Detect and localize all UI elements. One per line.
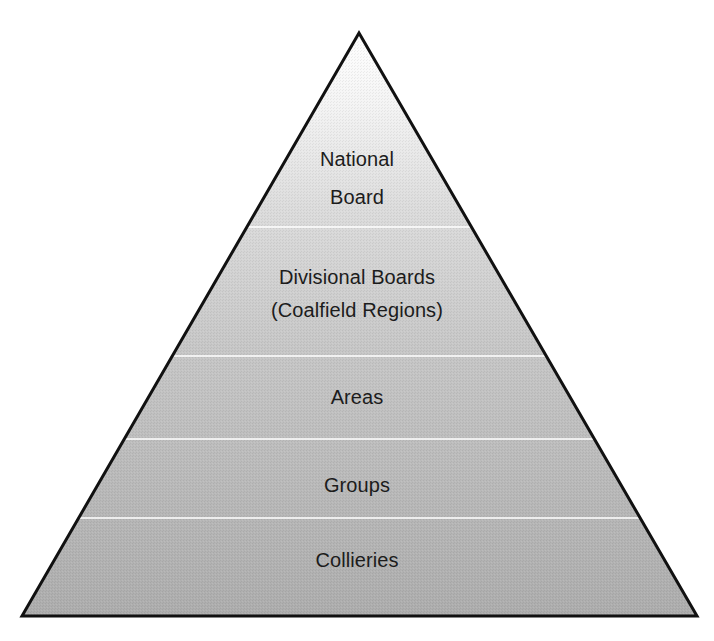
tier-1-line-1: National — [0, 143, 714, 176]
tier-label-areas: Areas — [0, 381, 714, 414]
tier-5-line-1: Collieries — [0, 544, 714, 577]
tier-label-divisional-boards: Divisional Boards (Coalfield Regions) — [0, 261, 714, 327]
tier-4-line-1: Groups — [0, 469, 714, 502]
tier-2-line-2: (Coalfield Regions) — [0, 294, 714, 327]
tier-2-line-1: Divisional Boards — [0, 261, 714, 294]
tier-label-national-board: National Board — [0, 143, 714, 214]
tier-label-collieries: Collieries — [0, 544, 714, 577]
tier-1-line-2: Board — [0, 181, 714, 214]
tier-label-groups: Groups — [0, 469, 714, 502]
tier-3-line-1: Areas — [0, 381, 714, 414]
